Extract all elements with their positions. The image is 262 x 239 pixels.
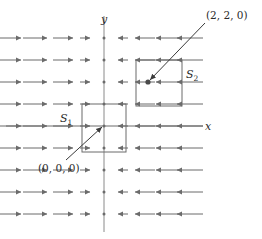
- surface-s2-index: 2: [194, 74, 199, 83]
- field-point: [103, 81, 106, 84]
- vector-field-figure: y x S1 S2 (0, 0, 0) (2, 2, 0): [0, 0, 262, 239]
- point-label-2-2-0: (2, 2, 0): [206, 10, 248, 21]
- field-canvas: [0, 0, 262, 239]
- field-point: [103, 125, 106, 128]
- surface-s1-label: S1: [60, 113, 72, 127]
- point-label-origin: (0, 0, 0): [38, 163, 80, 174]
- surface-s2-letter: S: [186, 68, 194, 81]
- field-point: [103, 147, 106, 150]
- point-marker-2-2-0: [145, 79, 150, 84]
- x-axis-label: x: [205, 121, 211, 132]
- y-axis-label: y: [101, 14, 107, 25]
- field-point: [103, 191, 106, 194]
- leader-line-origin: [66, 127, 102, 160]
- field-point: [103, 37, 106, 40]
- surface-s2-rect: [136, 60, 182, 106]
- surface-s1-letter: S: [60, 112, 68, 125]
- field-point: [103, 213, 106, 216]
- field-point: [103, 169, 106, 172]
- surface-s2-label: S2: [186, 69, 198, 83]
- surface-s1-index: 1: [68, 118, 73, 127]
- field-point: [103, 59, 106, 62]
